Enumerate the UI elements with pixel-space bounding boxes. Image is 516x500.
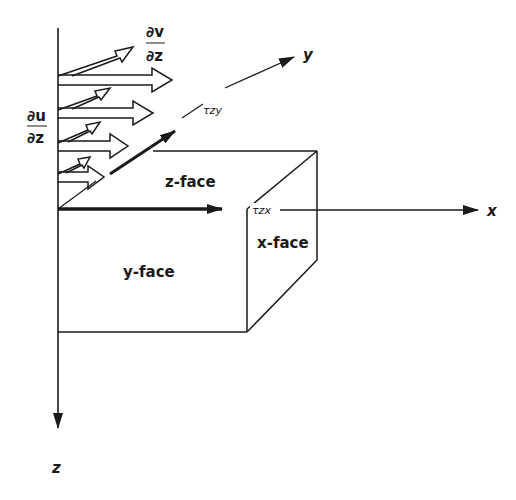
dv-numerator: ∂v xyxy=(146,23,164,41)
dv-dz-fraction: ∂v ∂z xyxy=(146,23,165,65)
y-face-label: y-face xyxy=(123,263,175,281)
x-face-label: x-face xyxy=(257,234,309,252)
z-axis-label: z xyxy=(51,459,61,477)
x-axis-label: x xyxy=(486,202,498,220)
dv-dz-velocity-profile xyxy=(58,47,133,174)
tau-zy-arrow xyxy=(110,131,175,174)
y-axis-label: y xyxy=(303,46,314,64)
tau-zx-label: τzx xyxy=(252,204,271,217)
du-dz-fraction: ∂u ∂z xyxy=(27,107,47,147)
dz-denominator-v: ∂z xyxy=(146,47,163,65)
dz-denominator-u: ∂z xyxy=(27,129,44,147)
du-numerator: ∂u xyxy=(27,107,46,125)
z-face-label: z-face xyxy=(165,173,216,191)
shear-stress-diagram: y x z z-face y-face x-face τzy τzx ∂v ∂z… xyxy=(0,0,516,500)
tau-zy-label: τzy xyxy=(203,104,222,117)
